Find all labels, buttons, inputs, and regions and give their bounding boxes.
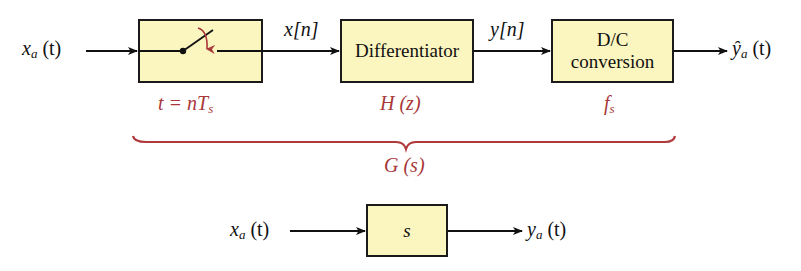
- brace-label: G (s): [384, 154, 425, 177]
- dc-label-line1: D/C: [597, 29, 629, 51]
- s-block: s: [366, 204, 448, 257]
- dc-conversion-block: D/C conversion: [551, 19, 674, 83]
- input-signal-label: xa (t): [22, 37, 61, 62]
- bottom-input-label: xa (t): [230, 218, 269, 243]
- dc-label-line2: conversion: [571, 51, 654, 73]
- grouping-brace: [133, 136, 675, 149]
- signal-label-yn: y[n]: [490, 18, 524, 41]
- differentiator-block: Differentiator: [340, 19, 474, 83]
- bottom-output-label: ya (t): [527, 218, 566, 243]
- output-signal-label: ŷa (t): [732, 37, 771, 62]
- signal-label-xn: x[n]: [284, 18, 318, 41]
- differentiator-label: Differentiator: [355, 40, 459, 62]
- sampler-block: [138, 19, 263, 83]
- sampler-annotation: t = nTs: [158, 92, 213, 117]
- switch-icon: [138, 19, 263, 83]
- s-block-label: s: [403, 220, 410, 242]
- dc-annotation: fs: [604, 92, 615, 117]
- differentiator-annotation: H (z): [380, 92, 421, 115]
